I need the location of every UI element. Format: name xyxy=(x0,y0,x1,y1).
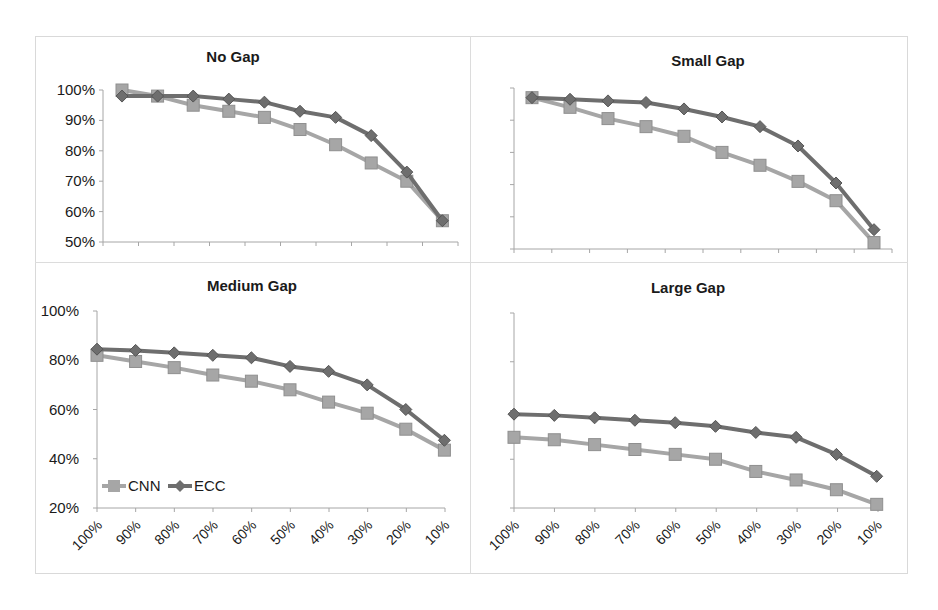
diamond-marker xyxy=(716,111,728,123)
chart-legend: CNNECC xyxy=(102,477,226,494)
x-tick-label: 40% xyxy=(306,517,337,548)
square-marker xyxy=(245,375,257,387)
square-marker xyxy=(323,396,335,408)
diamond-marker xyxy=(548,409,560,421)
diamond-marker xyxy=(284,360,296,372)
square-marker xyxy=(640,121,652,133)
panel-small-gap: Small Gap xyxy=(510,52,892,253)
x-tick-label: 30% xyxy=(344,517,375,548)
legend-label-cnn: CNN xyxy=(128,477,161,494)
square-marker xyxy=(716,146,728,158)
x-tick-label: 80% xyxy=(572,517,603,548)
y-tick-label: 70% xyxy=(65,172,95,189)
y-tick-label: 100% xyxy=(41,302,79,319)
x-tick-label: 30% xyxy=(773,517,804,548)
square-marker xyxy=(678,130,690,142)
square-marker xyxy=(830,195,842,207)
square-marker xyxy=(361,407,373,419)
square-marker xyxy=(207,369,219,381)
x-tick-label: 70% xyxy=(612,517,643,548)
y-tick-label: 40% xyxy=(49,450,79,467)
x-tick-label: 70% xyxy=(190,517,221,548)
y-tick-label: 60% xyxy=(65,203,95,220)
square-marker xyxy=(710,453,722,465)
x-tick-label: 20% xyxy=(383,517,414,548)
diamond-marker xyxy=(640,96,652,108)
x-tick-label: 60% xyxy=(652,517,683,548)
x-tick-label: 50% xyxy=(692,517,723,548)
diamond-marker xyxy=(710,420,722,432)
panel-no-gap: No Gap50%60%70%80%90%100% xyxy=(57,48,458,250)
square-marker xyxy=(400,423,412,435)
square-marker xyxy=(589,439,601,451)
y-tick-label: 80% xyxy=(49,351,79,368)
square-marker xyxy=(365,157,377,169)
series-line-cnn xyxy=(122,90,442,221)
diamond-marker xyxy=(294,105,306,117)
diamond-marker xyxy=(750,426,762,438)
y-tick-label: 80% xyxy=(65,142,95,159)
chart-title: Small Gap xyxy=(671,52,744,69)
y-tick-label: 50% xyxy=(65,233,95,250)
legend-square-icon xyxy=(108,480,120,492)
square-marker xyxy=(508,431,520,443)
square-marker xyxy=(602,113,614,125)
square-marker xyxy=(871,498,883,510)
x-tick-label: 40% xyxy=(733,517,764,548)
panel-medium-gap: Medium Gap20%40%60%80%100%100%90%80%70%6… xyxy=(41,277,453,553)
square-marker xyxy=(792,175,804,187)
x-tick-label: 50% xyxy=(267,517,298,548)
square-marker xyxy=(750,465,762,477)
square-marker xyxy=(258,111,270,123)
diamond-marker xyxy=(669,417,681,429)
diamond-marker xyxy=(130,344,142,356)
chart-grid: No Gap50%60%70%80%90%100% Small Gap Medi… xyxy=(0,0,938,610)
square-marker xyxy=(130,355,142,367)
square-marker xyxy=(223,105,235,117)
diamond-marker xyxy=(323,365,335,377)
diamond-marker xyxy=(168,347,180,359)
x-tick-label: 100% xyxy=(68,517,105,554)
square-marker xyxy=(790,474,802,486)
y-tick-label: 90% xyxy=(65,111,95,128)
chart-title: Medium Gap xyxy=(207,277,297,294)
diamond-marker xyxy=(790,431,802,443)
panel-large-gap: Large Gap100%90%80%70%60%50%40%30%20%10% xyxy=(485,279,884,553)
square-marker xyxy=(284,384,296,396)
square-marker xyxy=(548,434,560,446)
y-tick-label: 60% xyxy=(49,401,79,418)
diamond-marker xyxy=(678,103,690,115)
square-marker xyxy=(330,139,342,151)
square-marker xyxy=(868,237,880,249)
x-tick-label: 10% xyxy=(421,517,452,548)
diamond-marker xyxy=(258,96,270,108)
series-line-ecc xyxy=(122,96,442,221)
legend-diamond-icon xyxy=(174,480,186,492)
x-tick-label: 10% xyxy=(854,517,885,548)
square-marker xyxy=(830,484,842,496)
x-tick-label: 100% xyxy=(485,517,522,554)
chart-title: Large Gap xyxy=(651,279,725,296)
square-marker xyxy=(669,448,681,460)
x-tick-label: 20% xyxy=(813,517,844,548)
square-marker xyxy=(629,444,641,456)
diamond-marker xyxy=(589,412,601,424)
diamond-marker xyxy=(629,414,641,426)
x-tick-label: 60% xyxy=(228,517,259,548)
legend-label-ecc: ECC xyxy=(194,477,226,494)
series-line-ecc xyxy=(514,414,877,476)
square-marker xyxy=(168,362,180,374)
series-line-ecc xyxy=(532,98,874,230)
y-tick-label: 100% xyxy=(57,81,95,98)
square-marker xyxy=(294,124,306,136)
diamond-marker xyxy=(245,352,257,364)
diamond-marker xyxy=(602,95,614,107)
x-tick-label: 80% xyxy=(151,517,182,548)
diamond-marker xyxy=(223,93,235,105)
diamond-marker xyxy=(207,349,219,361)
x-tick-label: 90% xyxy=(113,517,144,548)
diamond-marker xyxy=(508,408,520,420)
chart-title: No Gap xyxy=(206,48,259,65)
x-tick-label: 90% xyxy=(531,517,562,548)
y-tick-label: 20% xyxy=(49,499,79,516)
